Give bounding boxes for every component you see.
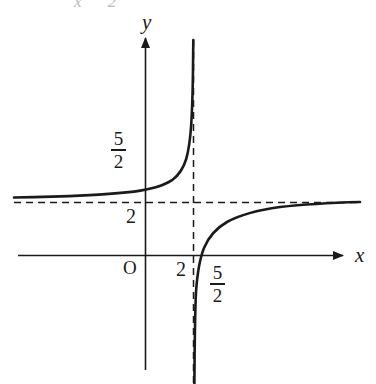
x-axis-label: x	[355, 245, 364, 266]
fraction-denominator: 2	[211, 285, 225, 305]
fraction-denominator: 2	[112, 151, 126, 171]
hyperbola-plot	[0, 0, 376, 384]
horizontal-asymptote-label: 2	[126, 206, 136, 226]
origin-label: O	[123, 258, 137, 277]
graph-figure: x 2 y x O 5 2	[0, 0, 376, 384]
fraction-numerator: 5	[112, 129, 126, 149]
y-axis-label: y	[142, 12, 151, 33]
x-asymptote-tick-label: 2	[176, 259, 186, 279]
y-intercept-label: 5 2	[111, 129, 126, 171]
curve-left-branch	[14, 40, 193, 198]
x-intercept-label: 5 2	[210, 263, 225, 305]
fraction-five-halves-x: 5 2	[210, 263, 225, 305]
fraction-five-halves-y: 5 2	[111, 129, 126, 171]
fraction-numerator: 5	[211, 263, 225, 283]
